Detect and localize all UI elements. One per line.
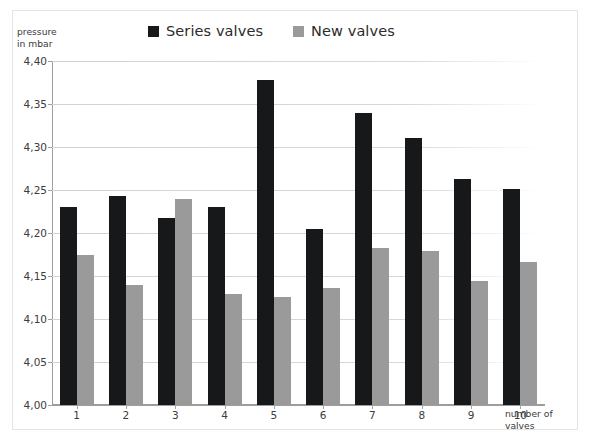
y-axis-tick-label: 4,20: [24, 227, 47, 239]
bar-new-valves: [520, 262, 537, 405]
x-axis-tick-label: 4: [200, 409, 249, 421]
bar-series-valves: [257, 80, 274, 405]
legend-label-series-valves: Series valves: [166, 23, 263, 39]
y-axis-title: pressure in mbar: [17, 26, 77, 49]
bar-group: [496, 61, 545, 405]
bar-new-valves: [225, 294, 242, 405]
bar-series-valves: [355, 113, 372, 405]
bar-series-valves: [60, 207, 77, 405]
bar-new-valves: [274, 297, 291, 405]
plot-area: 4,404,354,304,254,204,154,104,054,00: [52, 61, 545, 405]
y-axis-tick-label: 4,15: [24, 270, 47, 282]
bar-new-valves: [175, 199, 192, 405]
y-axis-tick-label: 4,40: [24, 55, 47, 67]
bar-series-valves: [454, 179, 471, 405]
y-axis-tick-label: 4,35: [24, 98, 47, 110]
bar-new-valves: [471, 281, 488, 405]
bar-series-valves: [405, 138, 422, 405]
x-axis-tick-label: 9: [446, 409, 495, 421]
x-axis-tick-labels: 12345678910: [52, 409, 545, 421]
x-axis-tick-label: 2: [101, 409, 150, 421]
bar-series-valves: [208, 207, 225, 405]
y-axis-tick-label: 4,00: [24, 399, 47, 411]
bar-new-valves: [372, 248, 389, 405]
bar-group: [397, 61, 446, 405]
y-axis-title-line1: pressure: [17, 26, 77, 38]
legend-label-new-valves: New valves: [311, 23, 395, 39]
x-axis-tick-label: 6: [298, 409, 347, 421]
bar-new-valves: [422, 251, 439, 405]
legend-swatch-new-valves: [293, 26, 304, 37]
x-axis-tick-label: 7: [348, 409, 397, 421]
bar-group: [151, 61, 200, 405]
bar-series-valves: [109, 196, 126, 405]
legend-swatch-series-valves: [148, 26, 159, 37]
y-axis-tick-label: 4,30: [24, 141, 47, 153]
bar-new-valves: [323, 288, 340, 405]
x-axis-title-line2: valves: [505, 420, 575, 432]
bar-new-valves: [126, 285, 143, 405]
y-axis-tick-label: 4,10: [24, 313, 47, 325]
x-axis-tick-label: 5: [249, 409, 298, 421]
legend-item-series-valves: Series valves: [148, 23, 263, 39]
bar-series-valves: [503, 189, 520, 405]
x-axis-tick-label: 8: [397, 409, 446, 421]
bar-chart-figure: pressure in mbar Series valves New valve…: [0, 0, 590, 437]
legend-item-new-valves: New valves: [293, 23, 395, 39]
x-axis-title: number of valves: [505, 408, 575, 431]
y-axis-tick-mark: [48, 405, 52, 406]
bar-series-valves: [158, 218, 175, 405]
y-axis-tick-label: 4,25: [24, 184, 47, 196]
x-axis-tick-label: 3: [151, 409, 200, 421]
bar-group: [446, 61, 495, 405]
x-axis-tick-label: 1: [52, 409, 101, 421]
bar-group: [101, 61, 150, 405]
bar-group: [200, 61, 249, 405]
chart-legend: Series valves New valves: [148, 20, 395, 42]
bar-group: [249, 61, 298, 405]
x-axis-title-line1: number of: [505, 408, 575, 420]
bar-group: [298, 61, 347, 405]
bar-group: [52, 61, 101, 405]
bars-layer: [52, 61, 545, 405]
bar-group: [348, 61, 397, 405]
bar-series-valves: [306, 229, 323, 405]
y-axis-tick-label: 4,05: [24, 356, 47, 368]
bar-new-valves: [77, 255, 94, 405]
y-axis-title-line2: in mbar: [17, 38, 77, 50]
